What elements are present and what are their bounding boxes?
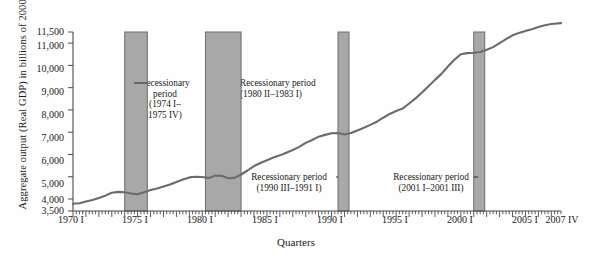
recession-band-1980	[206, 32, 242, 211]
x-axis-minor-ticks	[73, 211, 561, 217]
leader-lines-group	[134, 83, 478, 177]
y-axis-ticks	[68, 32, 73, 211]
recession-bands-group	[125, 32, 485, 211]
recession-band-2001	[474, 32, 485, 211]
recession-band-1990	[338, 32, 349, 211]
plot-canvas	[0, 0, 592, 260]
recession-band-1974	[125, 32, 148, 211]
gdp-recession-chart: Aggregate output (Real GDP) in billions …	[0, 0, 592, 260]
